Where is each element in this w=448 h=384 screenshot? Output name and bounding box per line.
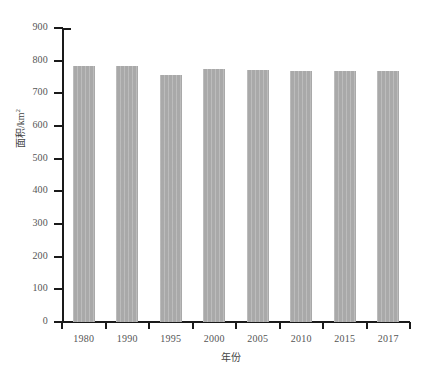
y-axis-title-exponent: 2 <box>14 109 22 113</box>
x-axis-tick-label: 2010 <box>276 333 326 344</box>
x-axis-tick-label: 1990 <box>102 333 152 344</box>
x-axis-tick <box>409 322 411 329</box>
y-axis-tick-label: 600 <box>0 119 48 130</box>
y-axis-tick-label: 0 <box>0 315 48 326</box>
y-axis-tick-label: 700 <box>0 86 48 97</box>
x-axis-tick <box>322 322 324 329</box>
x-axis-tick-label: 2017 <box>363 333 413 344</box>
bar <box>203 69 225 322</box>
bar <box>116 66 138 322</box>
plot-area <box>62 28 410 322</box>
bar <box>334 71 356 322</box>
y-axis-tick-label: 800 <box>0 54 48 65</box>
bar <box>290 71 312 322</box>
x-axis-tick <box>366 322 368 329</box>
x-axis-tick-label: 2005 <box>233 333 283 344</box>
y-axis-tick-label: 200 <box>0 250 48 261</box>
bar <box>247 70 269 323</box>
bar <box>377 71 399 322</box>
x-axis-tick-label: 1980 <box>59 333 109 344</box>
y-axis-title-text: 面积/km <box>15 112 26 148</box>
y-axis-tick-label: 500 <box>0 152 48 163</box>
y-axis-tick-label: 300 <box>0 217 48 228</box>
bar <box>160 75 182 322</box>
x-axis-tick <box>105 322 107 329</box>
x-axis-tick <box>279 322 281 329</box>
x-axis-tick <box>148 322 150 329</box>
bar <box>73 66 95 322</box>
y-axis-tick-label: 400 <box>0 184 48 195</box>
x-axis-tick <box>192 322 194 329</box>
x-axis-title: 年份 <box>0 349 448 364</box>
x-axis-tick <box>235 322 237 329</box>
y-axis-tick-label: 100 <box>0 282 48 293</box>
x-axis-tick <box>61 322 63 329</box>
y-axis-tick-label: 900 <box>0 21 48 32</box>
x-axis-tick-label: 2015 <box>320 333 370 344</box>
bar-chart-figure: 面积/km2 0100200300400500600700800900 1980… <box>0 0 448 384</box>
x-axis-tick-label: 1995 <box>146 333 196 344</box>
x-axis-tick-label: 2000 <box>189 333 239 344</box>
